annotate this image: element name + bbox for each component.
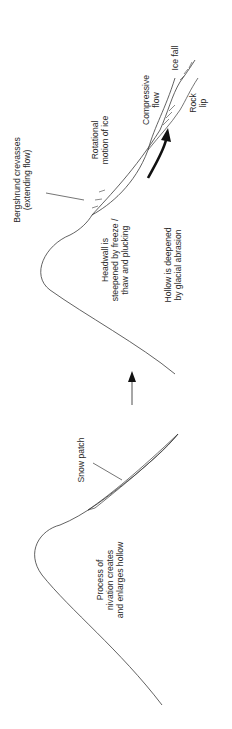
rotational-arrow-head: [161, 128, 171, 142]
label-ice-fall: Ice fall: [170, 46, 180, 71]
snow-patch-shape: [88, 434, 178, 510]
rotational-motion-arrow: [148, 140, 166, 178]
label-headwall: Headwall issteepened by freeze /thaw and…: [100, 219, 130, 302]
snow-patch-leader: [93, 463, 122, 480]
label-compressive: Compressiveflow: [141, 75, 161, 125]
label-rotational: Rotationalmotion of ice: [90, 116, 110, 165]
label-snow-patch: Snow patch: [76, 438, 86, 483]
label-hollow: Hollow is deepenedby glacial abrasion: [163, 227, 183, 302]
ice-fall-crevasses: [180, 62, 192, 80]
label-rock-lip: Rocklip: [188, 93, 208, 113]
bergshrund-leader: [46, 193, 84, 200]
bergshrund-crevasses: [92, 190, 105, 208]
label-nivation-process: Process ofnivation createsand enlarges h…: [95, 542, 125, 618]
label-bergshrund: Bergshrund crevasses(extending flow): [12, 137, 32, 223]
progression-arrow-head: [128, 371, 136, 382]
